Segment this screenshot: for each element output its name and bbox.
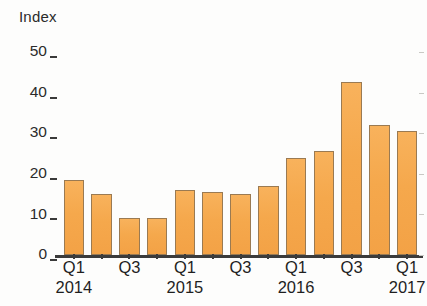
x-axis-label-group: Q12015	[167, 258, 204, 297]
x-axis-quarter-label: Q1	[389, 258, 426, 277]
x-axis-quarter-label: Q3	[118, 258, 140, 277]
y-tick-mark	[50, 218, 57, 220]
y-tick-mark	[50, 178, 57, 180]
bar	[230, 194, 251, 255]
x-axis-label-group: Q12017	[389, 258, 426, 297]
x-axis-label-group: Q3	[118, 258, 140, 277]
y-axis-title: Index	[19, 8, 57, 25]
x-axis-label-group: Q12014	[56, 258, 93, 297]
bar	[286, 158, 307, 255]
bar	[119, 218, 140, 255]
x-axis-quarter-label: Q3	[229, 258, 251, 277]
x-axis-labels: Q12014Q3Q12015Q3Q12016Q3Q12017	[0, 258, 427, 306]
x-axis-year-label: 2015	[167, 277, 204, 297]
bar	[369, 125, 390, 255]
y-tick-label: 50	[30, 43, 47, 59]
bar	[175, 190, 196, 255]
bar	[397, 131, 418, 255]
bar-chart: Index 01020304050 Q12014Q3Q12015Q3Q12016…	[0, 0, 427, 306]
x-axis-label-group: Q3	[229, 258, 251, 277]
bar	[147, 218, 168, 255]
y-tick-label: 40	[30, 84, 47, 100]
x-axis-quarter-label: Q1	[56, 258, 93, 277]
x-axis-label-group: Q3	[341, 258, 363, 277]
y-tick-label: 30	[30, 124, 47, 140]
y-tick-mark	[50, 97, 57, 99]
x-axis-year-label: 2014	[56, 277, 93, 297]
bar	[341, 82, 362, 255]
bar	[202, 192, 223, 255]
y-tick-label: 10	[30, 206, 47, 222]
y-tick-mark	[50, 56, 57, 58]
x-axis-quarter-label: Q3	[341, 258, 363, 277]
y-tick-label: 20	[30, 165, 47, 181]
bar	[91, 194, 112, 255]
x-axis-year-label: 2016	[278, 277, 315, 297]
x-axis-quarter-label: Q1	[278, 258, 315, 277]
x-axis-quarter-label: Q1	[167, 258, 204, 277]
bar	[64, 180, 85, 255]
x-axis-year-label: 2017	[389, 277, 426, 297]
x-axis-label-group: Q12016	[278, 258, 315, 297]
y-tick-mark	[50, 137, 57, 139]
bar	[258, 186, 279, 255]
bar	[314, 151, 335, 255]
